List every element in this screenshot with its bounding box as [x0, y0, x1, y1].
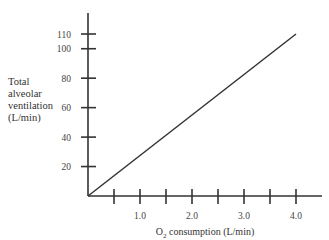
x-tick-label: 1.0 [134, 211, 146, 221]
chart-canvas: 20406080100110 1.02.03.04.0 O2 consumpti… [0, 0, 329, 240]
y-tick-label: 80 [62, 74, 72, 84]
y-axis-ticks: 20406080100110 [57, 30, 96, 173]
series-line [88, 34, 296, 196]
y-tick-label: 110 [57, 30, 71, 40]
x-tick-label: 2.0 [186, 211, 198, 221]
x-tick-label: 4.0 [290, 211, 302, 221]
x-axis-ticks: 1.02.03.04.0 [114, 189, 302, 221]
y-tick-label: 20 [62, 162, 72, 172]
y-tick-label: 100 [57, 44, 72, 54]
y-tick-label: 40 [62, 133, 72, 143]
data-series [88, 34, 296, 196]
y-tick-label: 60 [62, 103, 72, 113]
x-tick-label: 3.0 [238, 211, 250, 221]
x-axis-label: O2 consumption (L/min) [156, 226, 255, 240]
